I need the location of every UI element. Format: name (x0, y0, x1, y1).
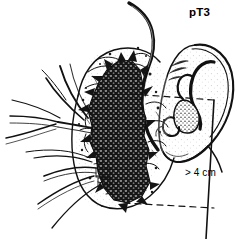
illustration-canvas (0, 0, 242, 239)
size-label: > 4 cm (185, 167, 216, 178)
stage-label: pT3 (189, 6, 210, 18)
pt3-parotid-tumour-illustration: pT3 > 4 cm (0, 0, 242, 239)
